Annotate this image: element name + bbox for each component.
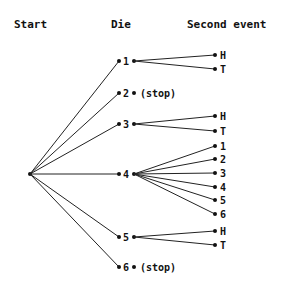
outcome-label: 4 xyxy=(220,182,226,193)
start-branches xyxy=(30,61,119,267)
outcome-label: T xyxy=(220,126,226,137)
outcome-label: 6 xyxy=(220,209,226,220)
outcome-label: 3 xyxy=(220,168,226,179)
outcome-label: T xyxy=(220,240,226,251)
header-start: Start xyxy=(14,18,47,31)
die-node-6: 6 (stop) xyxy=(117,262,176,273)
die-node-4: 4 1 2 3 4 5 6 xyxy=(117,141,226,220)
tree-diagram: Start Die Second event 1 H T xyxy=(0,0,289,291)
die-label: 1 xyxy=(123,56,129,67)
die-label: 2 xyxy=(123,88,129,99)
outcome-label: H xyxy=(220,50,226,61)
die-label: 4 xyxy=(123,169,129,180)
header-second-event: Second event xyxy=(187,18,266,31)
outcome-label: T xyxy=(220,64,226,75)
outcome-label: H xyxy=(220,226,226,237)
stop-label: (stop) xyxy=(140,88,176,99)
header-die: Die xyxy=(111,18,131,31)
die-label: 3 xyxy=(123,119,129,130)
die-label: 6 xyxy=(123,262,129,273)
die-label: 5 xyxy=(123,232,129,243)
outcome-label: 1 xyxy=(220,141,226,152)
stop-label: (stop) xyxy=(140,262,176,273)
die-node-1: 1 H T xyxy=(117,50,226,75)
die-node-3: 3 H T xyxy=(117,111,226,137)
outcome-label: H xyxy=(220,111,226,122)
die-node-5: 5 H T xyxy=(117,226,226,251)
outcome-label: 5 xyxy=(220,195,226,206)
die-node-2: 2 (stop) xyxy=(117,88,176,99)
outcome-label: 2 xyxy=(220,154,226,165)
